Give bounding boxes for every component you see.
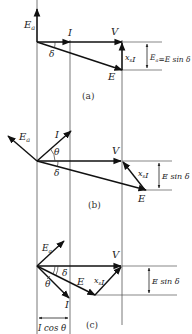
label-xsi: xsI	[125, 53, 136, 64]
panel-a: Ea I V δ xsI E Ea=E sin δ (a)	[23, 9, 191, 101]
label-e: E	[137, 193, 146, 204]
caption-c: (c)	[86, 320, 98, 330]
label-height: E sin δ	[161, 172, 190, 181]
phasor-diagram: Ea I V δ xsI E Ea=E sin δ (a) Ea I θ δ V…	[0, 0, 192, 334]
label-i: I	[67, 27, 73, 38]
label-ea: Ea	[41, 243, 53, 254]
caption-b: (b)	[88, 200, 101, 210]
label-xsi: xsI	[94, 276, 105, 287]
label-ea: Ea	[23, 19, 35, 32]
label-v: V	[111, 26, 120, 37]
label-e: E	[107, 71, 116, 82]
label-e: E	[76, 276, 85, 287]
label-height: E sin δ	[151, 277, 180, 286]
panel-b: Ea I θ δ V xsI E E sin δ (b)	[8, 129, 190, 210]
label-i: I	[54, 129, 60, 140]
label-width: I cos θ	[37, 323, 66, 333]
label-v: V	[112, 249, 121, 260]
label-v: V	[112, 145, 121, 156]
label-theta: θ	[54, 147, 60, 157]
delta-angle-arc	[55, 42, 56, 48]
delta-angle-arc	[57, 161, 58, 167]
label-i: I	[64, 299, 70, 310]
panel-c: Ea V δ θ E xsI I E sin δ I cos θ (c)	[37, 241, 180, 333]
label-delta: δ	[54, 168, 59, 178]
label-delta: δ	[49, 49, 54, 59]
delta-angle-arc-2	[56, 266, 58, 275]
label-ea: Ea	[18, 131, 30, 144]
label-xsi: xsI	[138, 169, 149, 180]
caption-a: (a)	[82, 91, 94, 101]
label-height: Ea=E sin δ	[149, 53, 191, 64]
label-delta: δ	[62, 268, 67, 278]
delta-angle-arc	[53, 266, 55, 274]
label-theta: θ	[45, 279, 51, 289]
